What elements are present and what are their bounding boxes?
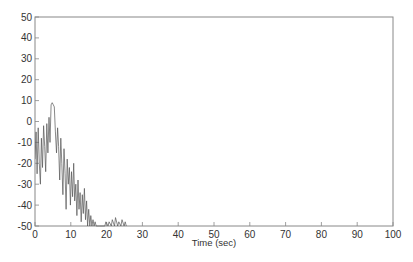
x-axis-title: Time (sec) <box>192 237 237 248</box>
x-tick-label: 0 <box>32 229 38 240</box>
x-tick-label: 20 <box>101 229 113 240</box>
y-tick-label: -20 <box>18 158 33 169</box>
y-tick-label: -10 <box>18 137 33 148</box>
x-tick-label: 40 <box>173 229 185 240</box>
x-tick-label: 100 <box>385 229 402 240</box>
x-tick-label: 70 <box>280 229 292 240</box>
plot-area <box>35 17 393 226</box>
y-tick-label: -50 <box>18 221 33 232</box>
y-tick-label: 0 <box>26 116 32 127</box>
x-tick-label: 30 <box>137 229 149 240</box>
x-tick-label: 80 <box>316 229 328 240</box>
y-tick-label: 10 <box>21 95 33 106</box>
y-tick-label: -40 <box>18 200 33 211</box>
y-tick-label: 20 <box>21 74 33 85</box>
chart: 50403020100-10-20-30-40-50 0102030405060… <box>0 0 413 262</box>
y-tick-label: -30 <box>18 179 33 190</box>
y-tick-label: 40 <box>21 32 33 43</box>
y-tick-label: 50 <box>21 12 33 23</box>
y-tick-label: 30 <box>21 53 33 64</box>
x-tick-label: 60 <box>244 229 256 240</box>
x-tick-label: 90 <box>352 229 364 240</box>
x-tick-label: 10 <box>65 229 77 240</box>
